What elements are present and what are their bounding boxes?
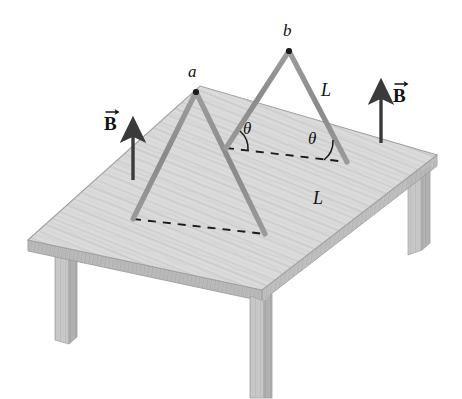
physics-diagram-canvas [0, 0, 462, 399]
label-theta-right: θ [308, 129, 316, 149]
label-point-b: b [283, 21, 292, 41]
table-leg-front [250, 294, 272, 398]
vertex-dot-b [286, 48, 292, 54]
b-field-left-text: B [104, 113, 117, 135]
label-b-field-left: B [104, 113, 117, 135]
label-length-upper: L [321, 80, 331, 101]
label-point-a: a [188, 62, 197, 82]
label-length-lower: L [313, 188, 323, 209]
label-theta-left: θ [243, 119, 251, 139]
b-field-right-text: B [393, 85, 406, 107]
table-leg-left [55, 250, 77, 344]
vector-arrow-icon [105, 108, 120, 115]
vertex-dot-a [193, 89, 199, 95]
label-b-field-right: B [393, 85, 406, 107]
table [28, 86, 437, 398]
vector-arrow-icon [394, 80, 409, 87]
